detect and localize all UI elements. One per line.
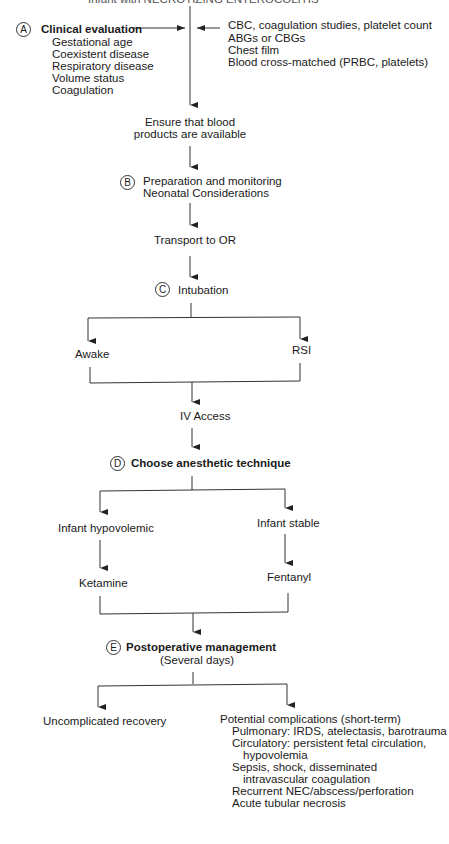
step-d-marker: D xyxy=(110,456,125,471)
step-c-marker: C xyxy=(155,282,170,297)
preparation-line: Neonatal Considerations xyxy=(143,187,269,199)
postoperative-subtitle: (Several days) xyxy=(160,654,234,666)
complication-item: Acute tubular necrosis xyxy=(232,797,346,809)
complication-item: Pulmonary: IRDS, atelectasis, barotrauma xyxy=(232,725,447,737)
complication-item: hypovolemia xyxy=(243,749,308,761)
complication-item: Sepsis, shock, disseminated xyxy=(232,761,377,773)
transport-to-or: Transport to OR xyxy=(154,234,236,246)
clinical-evaluation-title: Clinical evaluation xyxy=(41,23,142,35)
clinical-item: Respiratory disease xyxy=(52,60,154,72)
ketamine: Ketamine xyxy=(79,577,128,589)
clinical-item: Coagulation xyxy=(52,84,113,96)
lab-item: Blood cross-matched (PRBC, platelets) xyxy=(228,56,428,68)
lab-item: Chest film xyxy=(228,44,279,56)
step-b-marker: B xyxy=(120,175,135,190)
step-a-marker: A xyxy=(16,22,31,37)
blood-products-line: products are available xyxy=(120,128,260,140)
intubation-title: Intubation xyxy=(178,284,229,296)
complication-item: Circulatory: persistent fetal circulatio… xyxy=(232,737,426,749)
step-e-marker: E xyxy=(106,640,121,655)
blood-products-line: Ensure that blood xyxy=(120,116,260,128)
clinical-item: Coexistent disease xyxy=(52,48,149,60)
uncomplicated-recovery: Uncomplicated recovery xyxy=(43,715,166,727)
complication-item: intravascular coagulation xyxy=(243,773,370,785)
preparation-line: Preparation and monitoring xyxy=(143,175,282,187)
lab-item: CBC, coagulation studies, platelet count xyxy=(228,19,432,31)
clinical-item: Gestational age xyxy=(52,36,133,48)
complications-title: Potential complications (short-term) xyxy=(220,713,401,725)
infant-hypovolemic: Infant hypovolemic xyxy=(58,522,154,534)
lab-item: ABGs or CBGs xyxy=(228,32,305,44)
iv-access: IV Access xyxy=(180,410,231,422)
diagram-title-cropped: Infant with NECROTIZING ENTEROCOLITIS xyxy=(88,0,319,5)
anesthetic-technique-title: Choose anesthetic technique xyxy=(131,457,291,469)
rsi-option: RSI xyxy=(292,344,311,356)
awake-option: Awake xyxy=(75,348,109,360)
fentanyl: Fentanyl xyxy=(267,571,311,583)
complication-item: Recurrent NEC/abscess/perforation xyxy=(232,785,414,797)
infant-stable: Infant stable xyxy=(257,517,320,529)
postoperative-title: Postoperative management xyxy=(126,641,276,653)
clinical-item: Volume status xyxy=(52,72,124,84)
